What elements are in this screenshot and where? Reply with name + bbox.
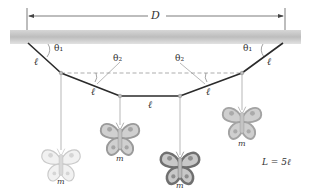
theta1-left-label: θ₁ — [54, 44, 63, 53]
theta2-left-arc — [95, 73, 97, 82]
string-joints — [59, 71, 244, 98]
theta2-right-arc — [205, 73, 207, 82]
dimension-label-D: D — [151, 10, 160, 21]
mass-label-3: m — [176, 182, 184, 190]
theta1-right-label: θ₁ — [243, 44, 252, 53]
theta1-left-arc — [47, 44, 50, 57]
hanging-threads — [61, 73, 242, 155]
theta2-right-leader — [180, 63, 205, 84]
theta1-right-arc — [261, 44, 264, 57]
segment-label-1: ℓ — [34, 57, 38, 67]
length-relation-label: L = 5ℓ — [262, 158, 291, 167]
segment-label-5: ℓ — [267, 57, 271, 67]
mass-label-2: m — [116, 155, 124, 163]
segment-label-2: ℓ — [91, 87, 95, 97]
mass-label-4: m — [238, 140, 246, 148]
theta2-right-label: θ₂ — [175, 54, 184, 63]
segment-label-4: ℓ — [206, 87, 210, 97]
ceiling-bar — [10, 30, 301, 44]
butterfly-4-icon — [223, 107, 261, 139]
butterfly-2-icon — [101, 123, 139, 155]
arrowhead-left-icon — [28, 14, 34, 18]
butterfly-3-icon — [161, 152, 199, 184]
arrowhead-right-icon — [278, 14, 284, 18]
theta2-left-label: θ₂ — [113, 54, 122, 63]
segment-label-3: ℓ — [148, 100, 152, 110]
mass-label-1: m — [57, 178, 65, 186]
